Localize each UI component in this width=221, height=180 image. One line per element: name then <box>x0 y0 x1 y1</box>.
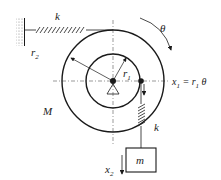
label-spring-right-k: k <box>154 121 160 133</box>
pulley-spring-mass-diagram: k θ r2 r1 x1 = r1 θ M k m x2 <box>0 0 221 180</box>
label-x2: x2 <box>104 163 114 178</box>
label-theta: θ <box>160 22 166 34</box>
label-spring-top-k: k <box>55 10 61 22</box>
theta-rotation-arrow <box>140 18 171 50</box>
r2-radius-arrow <box>71 58 113 81</box>
label-mass-disk-M: M <box>42 105 53 117</box>
label-r2: r2 <box>31 46 39 61</box>
fixed-wall <box>16 18 25 46</box>
label-x1-equation: x1 = r1 θ <box>171 76 207 90</box>
label-r1: r1 <box>123 67 131 82</box>
label-mass-block-m: m <box>136 154 144 166</box>
